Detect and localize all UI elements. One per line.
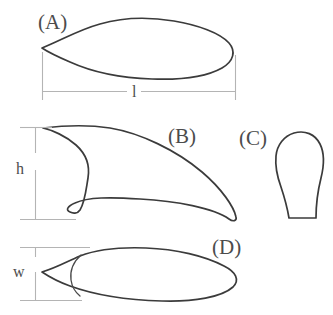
panel-label-a: (A): [38, 12, 67, 33]
figure-canvas: [0, 0, 333, 315]
panel-label-b: (B): [168, 126, 196, 147]
figure-container: (A) (B) (C) (D) l h w: [0, 0, 333, 315]
dimension-l-group: [42, 52, 236, 100]
dimension-h-group: [20, 128, 76, 220]
shape-a-outline: [42, 18, 233, 79]
panel-a-group: [42, 18, 233, 79]
dimension-label-length: l: [132, 84, 136, 100]
dimension-label-width: w: [13, 264, 25, 280]
panel-d-group: [42, 248, 236, 301]
shape-b-outline: [43, 126, 236, 221]
shape-c-outline: [276, 132, 324, 218]
dimension-label-height: h: [16, 161, 24, 177]
panel-b-group: [43, 126, 236, 221]
panel-label-c: (C): [239, 128, 267, 149]
panel-c-group: [276, 132, 324, 218]
panel-label-d: (D): [212, 237, 241, 258]
